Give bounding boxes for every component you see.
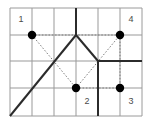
point-4-label: 4 xyxy=(128,14,133,24)
diagram-canvas: 1234 xyxy=(0,0,152,125)
point-3-marker xyxy=(116,84,124,92)
lattice-diagram-figure: 1234 xyxy=(0,0,152,125)
point-2-marker xyxy=(72,84,80,92)
point-3-label: 3 xyxy=(128,96,133,106)
point-1-marker xyxy=(28,31,36,39)
point-2-label: 2 xyxy=(84,96,89,106)
point-4-marker xyxy=(116,31,124,39)
point-1-label: 1 xyxy=(18,14,23,24)
